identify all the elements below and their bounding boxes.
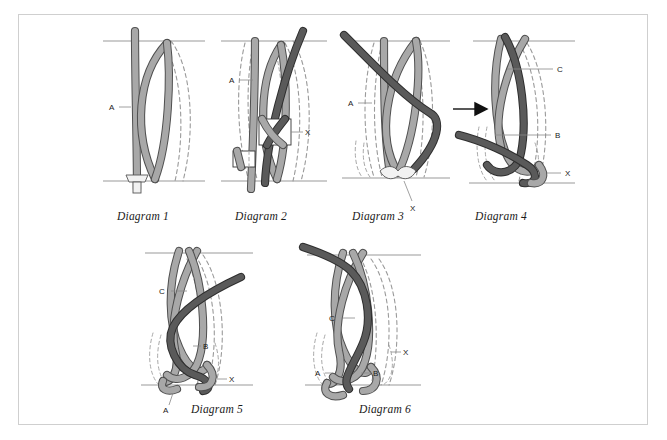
diagram-1-illustration: A <box>97 23 217 208</box>
label-a: A <box>229 76 235 85</box>
diagram-1-panel: A <box>97 23 217 208</box>
diagram-3-caption: Diagram 3 <box>352 210 404 222</box>
hidden-strand-5 <box>355 141 362 177</box>
diagram-2-caption: Diagram 2 <box>235 210 287 222</box>
hidden-strand-1 <box>171 41 190 181</box>
diagram-4-panel: C B X <box>447 23 597 213</box>
label-x: X <box>410 204 416 213</box>
label-a: A <box>315 369 321 378</box>
rope-left-fill <box>135 31 137 189</box>
diagram-6-caption: Diagram 6 <box>359 403 411 415</box>
figure-page: A Diagram 1 <box>0 0 667 440</box>
diagram-6-illustration: C X A B <box>287 233 447 413</box>
binding-tail <box>133 182 141 193</box>
hidden-strand-6 <box>363 143 370 177</box>
label-a: A <box>109 103 115 112</box>
label-a-leader <box>169 393 173 405</box>
label-c: C <box>159 287 165 296</box>
hidden-strand-2 <box>527 43 546 181</box>
binding-collar <box>126 175 148 182</box>
label-x-leader <box>404 181 412 201</box>
label-x: X <box>229 375 235 384</box>
label-c: C <box>329 314 335 323</box>
diagram-5-illustration: C B X A <box>119 233 279 413</box>
diagram-1-caption: Diagram 1 <box>117 210 169 222</box>
label-c: C <box>557 65 563 74</box>
hidden-strand-2 <box>379 259 397 385</box>
diagram-4-caption: Diagram 4 <box>475 210 527 222</box>
hidden-strand-4 <box>150 333 159 385</box>
diagram-3-illustration: X A <box>332 23 462 213</box>
label-a: A <box>163 406 169 415</box>
label-b: B <box>203 342 208 351</box>
diagram-2-illustration: X A <box>215 23 340 208</box>
label-x: X <box>565 169 571 178</box>
figure-frame: A Diagram 1 <box>18 14 648 425</box>
diagram-3-panel: X A <box>332 23 462 213</box>
rope-light-box-seg-fill <box>237 151 241 167</box>
label-b: B <box>373 369 378 378</box>
label-x: X <box>403 348 409 357</box>
diagram-5-panel: C B X A <box>119 233 279 413</box>
diagram-5-caption: Diagram 5 <box>191 403 243 415</box>
label-x: X <box>305 128 311 137</box>
rope-light-bight-fill <box>386 41 416 173</box>
diagram-6-panel: C X A B <box>287 233 447 413</box>
label-a: A <box>348 99 354 108</box>
direction-arrow <box>453 103 487 115</box>
diagram-2-panel: X A <box>215 23 340 208</box>
diagram-4-illustration: C B X <box>447 23 597 213</box>
label-b: B <box>555 131 560 140</box>
